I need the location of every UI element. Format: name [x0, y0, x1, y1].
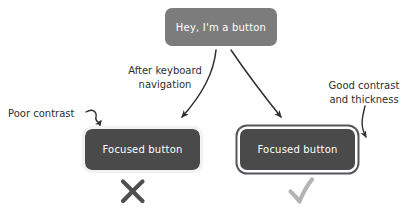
- arrow-to-good-button: [231, 50, 281, 117]
- annotation-after-keyboard-navigation: After keyboard navigation: [117, 64, 213, 91]
- resting-button[interactable]: Hey, I'm a button: [165, 8, 277, 46]
- cross-mark-icon: [118, 176, 148, 210]
- arrow-good-contrast-pointer: [362, 106, 366, 137]
- focused-button-poor-contrast[interactable]: Focused button: [85, 129, 200, 170]
- focused-button-good-contrast[interactable]: Focused button: [240, 129, 355, 170]
- annotation-good-contrast: Good contrast and thickness: [320, 79, 408, 106]
- check-mark-icon: [286, 176, 316, 210]
- annotation-poor-contrast: Poor contrast: [8, 107, 92, 121]
- diagram-canvas: Hey, I'm a button Focused button Focused…: [0, 0, 412, 216]
